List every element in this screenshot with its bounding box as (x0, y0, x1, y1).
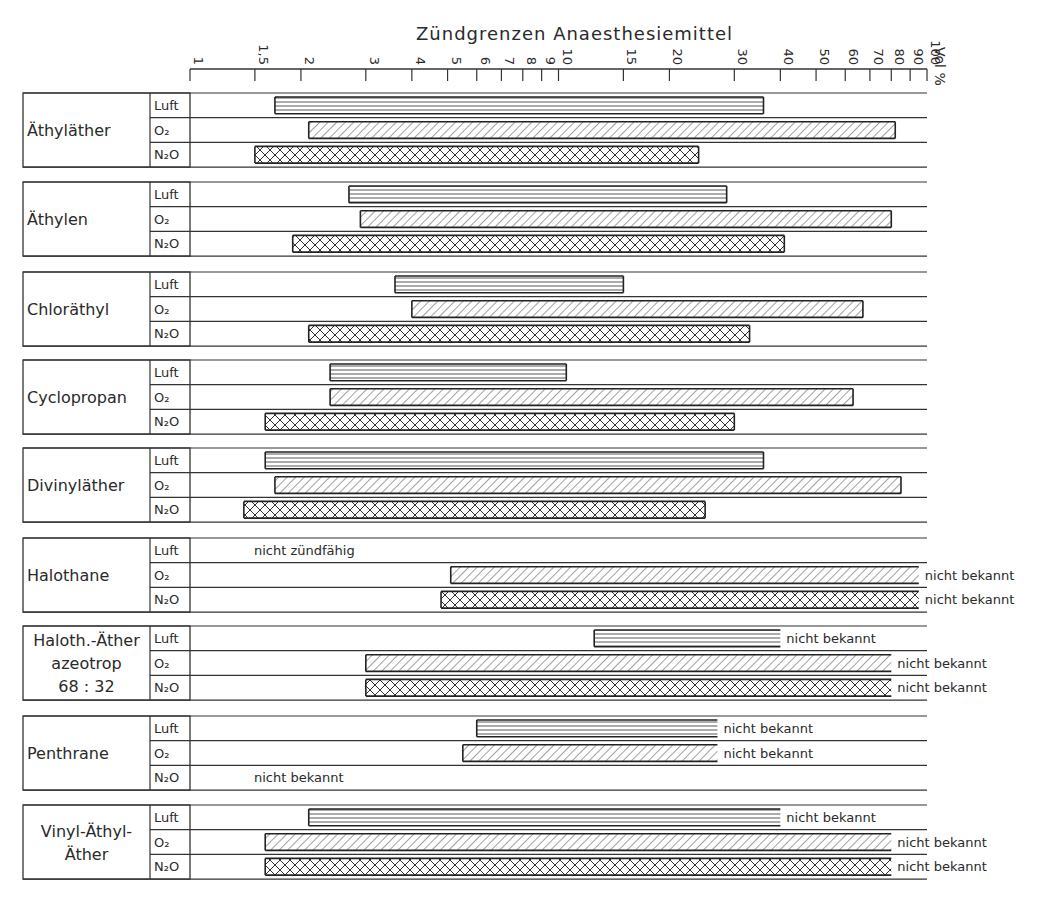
row-note: nicht zündfähig (254, 543, 355, 558)
x-tick-label: 6 (478, 57, 493, 65)
x-axis-unit: Vol % (932, 47, 948, 86)
chart-groups: ÄthylätherLuftO₂N₂OÄthylenLuftO₂N₂OChlor… (23, 93, 1014, 879)
bar-note: nicht bekannt (897, 859, 987, 874)
range-bar (265, 834, 891, 851)
range-bar (594, 630, 780, 647)
bar-note: nicht bekannt (897, 835, 987, 850)
group-name: Haloth.-Äther (33, 631, 140, 650)
medium-label: N₂O (154, 770, 179, 785)
medium-label: Luft (154, 543, 179, 558)
x-tick-label: 1 (191, 57, 206, 65)
medium-label: O₂ (154, 746, 169, 761)
group-name: Divinyläther (27, 476, 125, 495)
x-tick-label: 7 (502, 57, 517, 65)
bar-note: nicht bekannt (897, 656, 987, 671)
range-bar (477, 720, 718, 737)
x-tick-label: 2 (302, 57, 317, 65)
bar-note: nicht bekannt (925, 592, 1015, 607)
medium-label: Luft (154, 277, 179, 292)
x-tick-label: 8 (524, 57, 539, 65)
x-tick-label: 50 (817, 48, 832, 65)
group-name: azeotrop (51, 654, 121, 673)
bar-note: nicht bekannt (786, 810, 876, 825)
range-bar (293, 235, 785, 252)
medium-label: N₂O (154, 592, 179, 607)
x-tick-label: 60 (846, 48, 861, 65)
group-name: Chloräthyl (27, 300, 109, 319)
range-bar (309, 325, 750, 342)
x-tick-label: 40 (781, 48, 796, 65)
medium-label: N₂O (154, 236, 179, 251)
medium-label: N₂O (154, 147, 179, 162)
medium-label: N₂O (154, 859, 179, 874)
bar-note: nicht bekannt (786, 631, 876, 646)
group-2: ChloräthylLuftO₂N₂O (23, 272, 927, 346)
x-tick-label: 20 (670, 48, 685, 65)
group-8: Vinyl-Äthyl-ÄtherLuftnicht bekanntO₂nich… (23, 805, 987, 879)
medium-label: O₂ (154, 656, 169, 671)
range-bar (265, 858, 891, 875)
medium-label: Luft (154, 631, 179, 646)
medium-label: Luft (154, 98, 179, 113)
medium-label: O₂ (154, 835, 169, 850)
group-6: Haloth.-Ätherazeotrop68 : 32Luftnicht be… (23, 626, 987, 700)
medium-label: Luft (154, 810, 179, 825)
x-tick-label: 9 (543, 57, 558, 65)
medium-label: O₂ (154, 390, 169, 405)
medium-label: Luft (154, 453, 179, 468)
range-bar (395, 276, 623, 293)
medium-label: N₂O (154, 680, 179, 695)
chart-title: Zündgrenzen Anaesthesiemittel (416, 23, 733, 44)
x-tick-label: 10 (560, 48, 575, 65)
group-name: Vinyl-Äthyl- (41, 822, 132, 841)
range-bar (275, 477, 901, 494)
range-bar (360, 211, 891, 228)
group-name: Äther (65, 845, 109, 864)
group-1: ÄthylenLuftO₂N₂O (23, 182, 927, 256)
range-bar (330, 364, 566, 381)
group-name: 68 : 32 (58, 677, 114, 696)
x-axis: 11,52345678910152030405060708090100Vol % (190, 40, 948, 86)
range-bar (265, 413, 734, 430)
medium-label: O₂ (154, 123, 169, 138)
group-name: Äthyläther (27, 121, 111, 140)
x-tick-label: 70 (871, 48, 886, 65)
x-tick-label: 80 (892, 48, 907, 65)
range-bar (275, 97, 764, 114)
medium-label: Luft (154, 187, 179, 202)
range-bar (366, 679, 891, 696)
medium-label: O₂ (154, 478, 169, 493)
range-bar (255, 146, 699, 163)
range-bar (441, 591, 919, 608)
range-bar (244, 501, 705, 518)
range-bar (366, 655, 891, 672)
group-5: HalothaneLuftnicht zündfähigO₂nicht beka… (23, 538, 1014, 612)
range-bar (309, 809, 781, 826)
x-tick-label: 15 (624, 48, 639, 65)
group-name: Äthylen (27, 210, 88, 229)
group-7: PenthraneLuftnicht bekanntO₂nicht bekann… (23, 716, 927, 790)
medium-label: N₂O (154, 414, 179, 429)
bar-note: nicht bekannt (723, 721, 813, 736)
x-tick-label: 4 (413, 57, 428, 65)
group-4: DivinylätherLuftO₂N₂O (23, 448, 927, 522)
x-tick-label: 30 (735, 48, 750, 65)
x-tick-label: 5 (449, 57, 464, 65)
bar-note: nicht bekannt (723, 746, 813, 761)
range-bar (463, 745, 718, 762)
medium-label: O₂ (154, 568, 169, 583)
group-0: ÄthylätherLuftO₂N₂O (23, 93, 927, 167)
medium-label: N₂O (154, 502, 179, 517)
row-note: nicht bekannt (254, 770, 344, 785)
medium-label: O₂ (154, 212, 169, 227)
x-tick-label: 90 (911, 48, 926, 65)
range-bar (309, 122, 896, 139)
range-bar (451, 567, 919, 584)
flammability-range-chart: Zündgrenzen Anaesthesiemittel 11,5234567… (0, 0, 1038, 900)
x-tick-label: 1,5 (256, 44, 271, 65)
range-bar (330, 389, 853, 406)
range-bar (265, 452, 763, 469)
group-name: Halothane (27, 566, 109, 585)
bar-note: nicht bekannt (897, 680, 987, 695)
range-bar (412, 301, 863, 318)
